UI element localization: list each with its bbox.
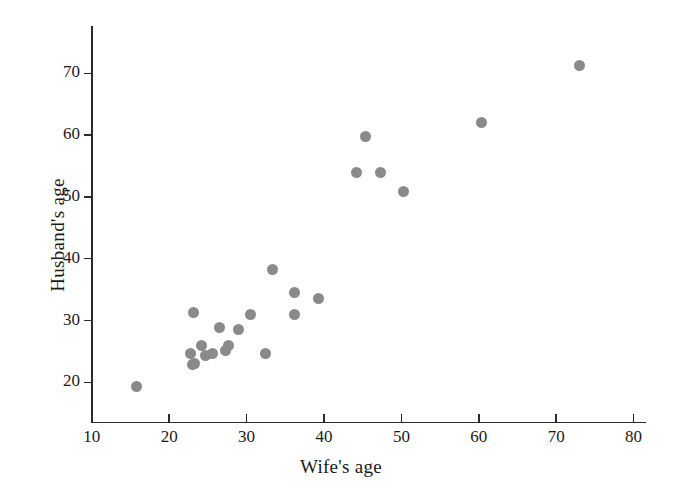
x-tick-mark	[168, 414, 170, 422]
x-tick-mark	[478, 414, 480, 422]
data-point	[223, 340, 234, 351]
data-point	[189, 358, 200, 369]
plot-area: 203040506070 1020304050607080	[0, 0, 682, 500]
data-point	[476, 117, 487, 128]
data-point	[351, 167, 362, 178]
data-point	[131, 381, 142, 392]
x-tick-mark	[555, 414, 557, 422]
data-point	[375, 167, 386, 178]
x-tick-mark	[246, 414, 248, 422]
x-tick-label: 50	[376, 427, 426, 447]
data-point	[398, 186, 409, 197]
x-tick-mark	[91, 414, 93, 422]
data-point	[207, 348, 218, 359]
x-tick-label: 70	[531, 427, 581, 447]
x-tick-mark	[323, 414, 325, 422]
y-tick-mark	[84, 196, 92, 198]
y-tick-mark	[84, 134, 92, 136]
x-tick-label: 20	[144, 427, 194, 447]
y-tick-mark	[84, 258, 92, 260]
x-tick-label: 40	[299, 427, 349, 447]
data-point	[289, 287, 300, 298]
data-point	[267, 264, 278, 275]
x-axis-line	[91, 422, 646, 424]
x-tick-label: 80	[609, 427, 659, 447]
data-point	[214, 322, 225, 333]
y-tick-mark	[84, 73, 92, 75]
scatter-plot-figure: 203040506070 1020304050607080 Wife's age…	[0, 0, 682, 500]
x-tick-label: 30	[222, 427, 272, 447]
data-point	[360, 131, 371, 142]
data-point	[289, 309, 300, 320]
y-tick-label: 70	[44, 62, 80, 82]
x-tick-mark	[633, 414, 635, 422]
data-point	[233, 324, 244, 335]
data-point	[574, 60, 585, 71]
y-axis-line	[91, 26, 93, 423]
x-tick-label: 10	[67, 427, 117, 447]
y-axis-title: Husband's age	[47, 85, 69, 385]
data-point	[313, 293, 324, 304]
x-tick-label: 60	[454, 427, 504, 447]
x-axis-title: Wife's age	[0, 456, 682, 478]
x-tick-mark	[401, 414, 403, 422]
y-tick-mark	[84, 382, 92, 384]
data-point	[260, 348, 271, 359]
data-point	[188, 307, 199, 318]
y-tick-mark	[84, 320, 92, 322]
data-point	[245, 309, 256, 320]
data-point	[185, 348, 196, 359]
